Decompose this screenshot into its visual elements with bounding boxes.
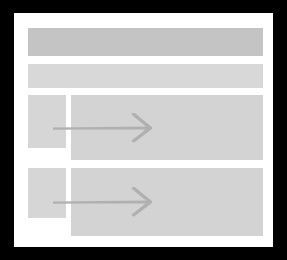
header-placeholder-bar bbox=[28, 28, 263, 56]
screen-root bbox=[0, 0, 287, 260]
content-panel-1[interactable] bbox=[71, 95, 263, 160]
document-sheet bbox=[14, 13, 273, 247]
content-panel-2[interactable] bbox=[71, 168, 263, 236]
thumbnail-placeholder-1[interactable] bbox=[28, 95, 66, 148]
thumbnail-placeholder-2[interactable] bbox=[28, 168, 66, 218]
subheader-placeholder-bar bbox=[28, 64, 263, 88]
